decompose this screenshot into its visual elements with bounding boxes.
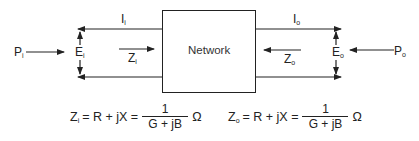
equation-lhs: Zi: [70, 110, 79, 124]
ohm-unit: Ω: [192, 110, 201, 124]
equation-lhs: Zo: [228, 110, 240, 124]
fraction-numerator: 1: [162, 102, 169, 116]
equation-fraction: 1 G + jB: [142, 102, 188, 132]
fraction-denominator: G + jB: [309, 117, 343, 132]
input-current-label: Ii: [121, 13, 126, 29]
input-voltage-label: Ei: [75, 46, 85, 62]
input-power-label: Pi: [14, 46, 24, 62]
input-impedance-equation: Zi = R + jX = 1 G + jB Ω: [70, 102, 202, 132]
output-impedance-equation: Zo = R + jX = 1 G + jB Ω: [228, 102, 362, 132]
output-power-label: Po: [394, 45, 406, 61]
input-impedance-label: Zi: [128, 52, 137, 68]
fraction-denominator: G + jB: [148, 117, 182, 132]
network-label: Network: [188, 44, 230, 56]
equation-middle: = R + jX =: [82, 110, 138, 124]
equation-fraction: 1 G + jB: [302, 102, 348, 132]
ohm-unit: Ω: [352, 110, 361, 124]
equation-middle: = R + jX =: [243, 110, 299, 124]
output-current-label: Io: [293, 13, 300, 29]
fraction-numerator: 1: [322, 102, 329, 116]
output-impedance-label: Zo: [284, 53, 295, 69]
output-voltage-label: Eo: [332, 46, 344, 62]
